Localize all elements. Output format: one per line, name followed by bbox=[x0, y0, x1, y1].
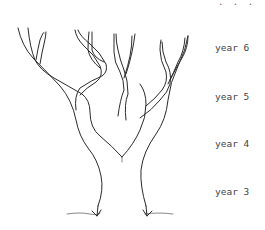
year-6-label: year 6 bbox=[215, 43, 249, 53]
year-3-label: year 3 bbox=[215, 187, 249, 197]
right-root bbox=[143, 206, 152, 216]
right-center-branch-b bbox=[114, 34, 124, 116]
left-branch-inner-a bbox=[36, 32, 44, 60]
ground-line bbox=[67, 213, 173, 215]
trunk-right-edge bbox=[141, 36, 188, 206]
year-4-label: year 4 bbox=[215, 139, 249, 149]
continuation-dots: . . . bbox=[218, 0, 255, 7]
fork-right-inner bbox=[122, 84, 146, 157]
year-5-label: year 5 bbox=[215, 92, 249, 102]
